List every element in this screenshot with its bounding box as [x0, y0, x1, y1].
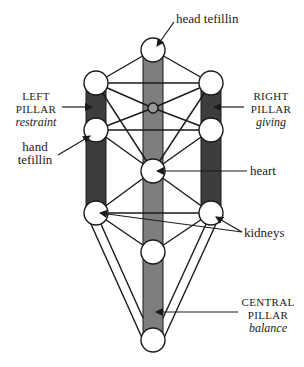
- label-left-pillar: LEFT PILLAR restraint: [8, 90, 64, 129]
- label-central-pillar: CENTRAL PILLAR balance: [236, 296, 300, 335]
- node-bottom: [141, 328, 165, 352]
- node-left-top: [84, 71, 108, 95]
- label-hand-tefillin: hand tefillin: [10, 140, 60, 166]
- node-small-center: [148, 103, 158, 113]
- arrow-head-tefillin: [157, 22, 174, 46]
- label-heart: heart: [250, 164, 276, 177]
- left-pillar-subtitle: restraint: [8, 116, 64, 129]
- right-pillar-title-1: RIGHT: [242, 90, 300, 103]
- hand-tefillin-line-2: tefillin: [10, 153, 60, 166]
- node-left-mid: [84, 118, 108, 142]
- label-kidneys: kidneys: [244, 226, 284, 239]
- node-lower-center: [141, 240, 165, 264]
- label-right-pillar: RIGHT PILLAR giving: [242, 90, 300, 129]
- node-right-low: [199, 201, 223, 225]
- arrow-hand-tefillin: [58, 136, 90, 155]
- central-pillar-subtitle: balance: [236, 322, 300, 335]
- left-pillar-title-1: LEFT: [8, 90, 64, 103]
- left-pillar: [86, 83, 106, 213]
- central-pillar: [143, 50, 163, 340]
- right-pillar: [201, 83, 221, 213]
- label-head-tefillin: head tefillin: [176, 12, 238, 25]
- node-top: [141, 38, 165, 62]
- node-right-top: [199, 71, 223, 95]
- node-right-mid: [199, 118, 223, 142]
- central-pillar-title-1: CENTRAL: [236, 296, 300, 309]
- right-pillar-subtitle: giving: [242, 116, 300, 129]
